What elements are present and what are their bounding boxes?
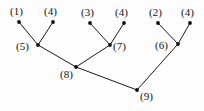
tree-node-label: (7) [113,41,126,52]
tree-node-label: (4) [44,6,57,17]
tree-node-label: (9) [140,91,153,102]
tree-edge [90,23,110,45]
tree-node-dot[interactable] [88,21,92,25]
tree-node-label: (8) [60,69,73,80]
tree-node-dot[interactable] [108,43,112,47]
edge-layer [19,22,190,90]
tree-node-label: (2) [149,7,162,18]
tree-node-dot[interactable] [156,21,160,25]
tree-edge [178,23,190,44]
tree-node-dot[interactable] [17,20,21,24]
tree-graph-canvas [0,0,204,111]
tree-node-label: (1) [10,6,23,17]
tree-diagram: (1)(4)(3)(4)(2)(4)(5)(7)(6)(8)(9) [0,0,204,111]
tree-node-label: (4) [115,7,128,18]
tree-edge [76,67,137,90]
tree-edge [38,22,53,45]
tree-edge [38,45,76,67]
tree-edge [76,45,110,67]
tree-node-dot[interactable] [135,88,139,92]
tree-node-dot[interactable] [36,43,40,47]
tree-node-label: (6) [155,40,168,51]
tree-node-label: (3) [81,7,94,18]
tree-node-label: (4) [181,7,194,18]
tree-node-dot[interactable] [51,20,55,24]
tree-node-dot[interactable] [74,65,78,69]
tree-node-label: (5) [16,41,29,52]
tree-node-dot[interactable] [122,21,126,25]
tree-node-dot[interactable] [188,21,192,25]
tree-node-dot[interactable] [176,42,180,46]
